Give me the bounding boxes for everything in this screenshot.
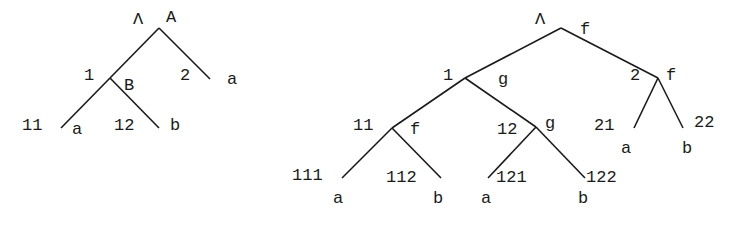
node-symbol-label: g <box>498 70 508 89</box>
node-symbol-label: b <box>682 139 692 158</box>
node-symbol-label: a <box>227 70 237 89</box>
node-position-label: 12 <box>497 120 517 139</box>
node-position-label: 22 <box>694 113 714 132</box>
node-symbol-label: f <box>410 120 420 139</box>
tree-edge <box>536 127 585 178</box>
tree-edge <box>61 78 110 128</box>
node-position-label: 21 <box>594 116 614 135</box>
tree-edge <box>561 28 658 78</box>
node-position-label: 12 <box>114 116 134 135</box>
node-position-label: 112 <box>386 168 417 187</box>
node-symbol-label: f <box>580 20 590 39</box>
node-position-label: 1 <box>84 66 94 85</box>
tree-edge <box>465 28 561 78</box>
node-symbol-label: g <box>545 114 555 133</box>
left-tree: ΛA1B2a11a12b <box>22 8 237 139</box>
tree-edge <box>110 28 159 78</box>
node-position-label: 121 <box>496 168 527 187</box>
node-position-label: Λ <box>133 10 144 29</box>
node-position-label: 1 <box>443 66 453 85</box>
node-symbol-label: b <box>170 116 180 135</box>
tree-edge <box>392 78 465 128</box>
node-symbol-label: a <box>72 120 82 139</box>
node-position-label: 122 <box>586 168 617 187</box>
node-position-label: 111 <box>292 166 323 185</box>
tree-edge <box>634 78 658 128</box>
node-symbol-label: b <box>433 189 443 208</box>
node-position-label: Λ <box>535 10 546 29</box>
tree-edge <box>342 128 392 178</box>
right-tree: Λf1g2f11f12g21a22b111a112b121a122b <box>292 10 714 208</box>
node-symbol-label: a <box>481 189 491 208</box>
term-trees-diagram: ΛA1B2a11a12b Λf1g2f11f12g21a22b111a112b1… <box>0 0 737 230</box>
node-symbol-label: A <box>166 8 177 27</box>
node-symbol-label: B <box>124 76 134 95</box>
node-position-label: 2 <box>180 66 190 85</box>
node-symbol-label: a <box>333 189 343 208</box>
node-position-label: 11 <box>22 116 42 135</box>
node-symbol-label: a <box>621 139 631 158</box>
node-position-label: 2 <box>630 66 640 85</box>
node-position-label: 11 <box>353 116 373 135</box>
node-symbol-label: f <box>666 66 676 85</box>
node-symbol-label: b <box>578 189 588 208</box>
tree-edge <box>658 78 683 128</box>
